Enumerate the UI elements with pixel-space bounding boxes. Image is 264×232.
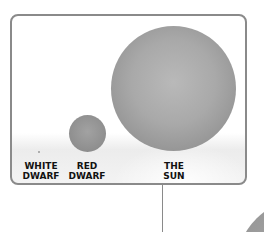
red-dwarf-label: RED DWARF — [67, 161, 107, 181]
sun-circle — [111, 26, 236, 151]
white-dwarf-label: WHITE DWARF — [21, 161, 61, 181]
white-dwarf-label-line1: WHITE — [21, 161, 61, 171]
sun-label: THE SUN — [154, 161, 194, 181]
white-dwarf-dot — [38, 151, 40, 153]
white-dwarf-label-line2: DWARF — [21, 171, 61, 181]
sun-label-line1: THE — [154, 161, 194, 171]
connector-line — [162, 183, 163, 232]
red-dwarf-circle — [69, 115, 106, 152]
enlarged-star-partial — [236, 198, 264, 232]
comparison-panel: WHITE DWARF RED DWARF THE SUN — [10, 14, 247, 185]
red-dwarf-label-line1: RED — [67, 161, 107, 171]
sun-label-line2: SUN — [154, 171, 194, 181]
red-dwarf-label-line2: DWARF — [67, 171, 107, 181]
